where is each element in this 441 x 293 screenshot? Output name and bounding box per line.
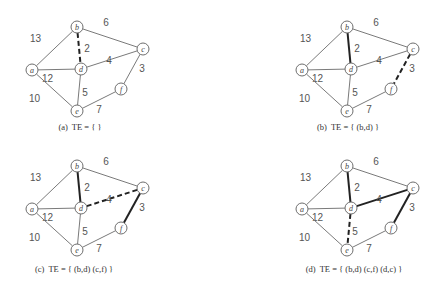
node-a: a [296,203,308,215]
panel-c: 136212431057abcdef(c)TE = { (b,d) (c,f) … [26,156,149,274]
edge-weight-label: 6 [103,156,109,167]
node-d: d [345,63,357,75]
edge-weight-label: 5 [352,87,358,98]
edge-d-c [87,190,138,206]
edge-weight-label: 4 [376,55,382,66]
node-label: e [345,246,349,255]
node-label: a [30,205,34,214]
node-c: c [137,43,149,55]
edge-weight-label: 3 [409,63,415,74]
node-b: b [341,21,353,33]
edge-weight-label: 4 [106,194,112,205]
edge-d-e [78,75,81,105]
edge-weight-label: 3 [139,202,145,213]
node-label: c [411,45,415,54]
edge-weight-label: 13 [30,33,42,44]
edge-d-e [348,75,351,105]
edge-d-c [357,190,408,206]
edge-weight-label: 4 [106,55,112,66]
node-label: c [141,184,145,193]
node-label: a [30,66,34,75]
node-label: a [300,205,304,214]
caption-text: TE = { } [72,122,102,132]
edge-weight-label: 13 [300,33,312,44]
edge-weight-label: 10 [299,232,311,243]
node-f: f [115,222,127,234]
edge-a-d [308,208,345,209]
node-e: e [341,105,353,117]
edge-weight-label: 6 [103,17,109,28]
node-d: d [75,63,87,75]
caption-text: TE = { (b,d) } [331,122,379,132]
panel-caption: (c)TE = { (b,d) (c,f) } [35,264,113,274]
edge-weight-label: 12 [312,212,324,223]
edge-a-e [36,213,72,246]
edge-b-d [78,33,81,63]
edge-a-b [36,170,72,205]
edge-a-d [38,69,75,70]
caption-prefix: (b) [317,122,327,132]
node-a: a [26,203,38,215]
edge-weight-label: 7 [366,104,372,115]
edge-weight-label: 12 [312,73,324,84]
edge-weight-label: 12 [42,73,54,84]
edge-d-c [357,51,408,67]
caption-text: TE = { (b,d) (c,f) } [48,264,113,274]
node-label: b [345,23,349,32]
node-label: e [75,107,79,116]
node-f: f [115,83,127,95]
node-label: c [411,184,415,193]
edge-d-e [348,214,351,244]
kruskal-diagram: 136212431057abcdef(a)TE = { }13621243105… [0,0,441,293]
caption-prefix: (c) [35,264,45,274]
edge-weight-label: 12 [42,212,54,223]
edge-a-e [306,213,342,246]
edge-a-b [306,170,342,205]
edge-a-d [38,208,75,209]
edge-weight-label: 4 [376,194,382,205]
edge-weight-label: 2 [354,43,360,54]
edge-b-d [348,33,351,63]
panel-caption: (b)TE = { (b,d) } [317,122,379,132]
edge-b-c [353,168,408,186]
caption-prefix: (d) [306,264,316,274]
panel-b: 136212431057abcdef(b)TE = { (b,d) } [296,17,419,132]
node-label: e [345,107,349,116]
panel-a: 136212431057abcdef(a)TE = { } [26,17,149,132]
node-b: b [341,160,353,172]
node-b: b [71,160,83,172]
node-b: b [71,21,83,33]
edge-weight-label: 3 [409,202,415,213]
node-e: e [71,105,83,117]
edge-a-e [36,74,72,107]
node-label: b [75,162,79,171]
edge-b-d [78,172,81,202]
edge-a-b [306,31,342,66]
edge-c-f [394,54,410,83]
edge-weight-label: 7 [366,243,372,254]
edge-weight-label: 3 [139,63,145,74]
node-d: d [345,202,357,214]
edge-c-f [394,193,410,222]
caption-prefix: (a) [58,122,68,132]
edge-weight-label: 2 [84,43,90,54]
edge-b-c [353,29,408,47]
edge-weight-label: 10 [29,232,41,243]
edge-weight-label: 5 [352,226,358,237]
edge-b-c [83,168,138,186]
edge-c-f [124,193,140,222]
diagram-canvas: 136212431057abcdef(a)TE = { }13621243105… [0,0,441,293]
edge-weight-label: 7 [96,104,102,115]
edge-d-e [78,214,81,244]
edge-d-c [87,51,138,67]
node-e: e [341,244,353,256]
node-label: a [300,66,304,75]
edge-weight-label: 10 [299,93,311,104]
edge-weight-label: 13 [30,172,42,183]
node-label: b [75,23,79,32]
panel-caption: (a)TE = { } [58,122,101,132]
edge-a-b [36,31,72,66]
edge-a-e [306,74,342,107]
caption-text: TE = { (b,d) (c,f) (d,c) } [320,264,403,274]
node-c: c [407,182,419,194]
